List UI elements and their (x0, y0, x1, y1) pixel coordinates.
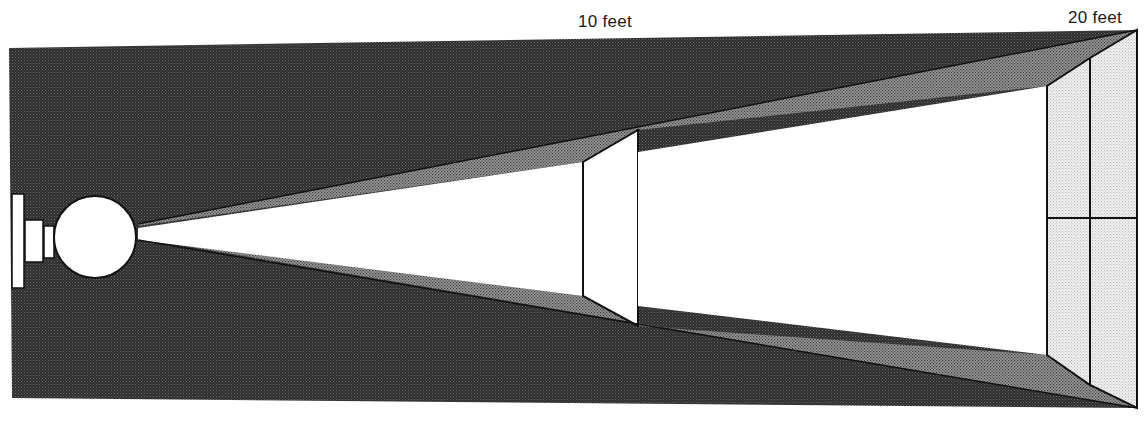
distance-label-10-feet: 10 feet (578, 12, 632, 32)
far-screen-left-panel (1047, 58, 1090, 385)
distance-label-20-feet: 20 feet (1068, 8, 1122, 28)
lamp-socket (44, 226, 54, 258)
lamp-neck (25, 220, 43, 262)
bulb-icon (54, 196, 136, 278)
lamp-base-plate (12, 194, 24, 288)
light-falloff-diagram: 10 feet 20 feet (0, 0, 1147, 428)
near-screen-panel (583, 130, 638, 326)
